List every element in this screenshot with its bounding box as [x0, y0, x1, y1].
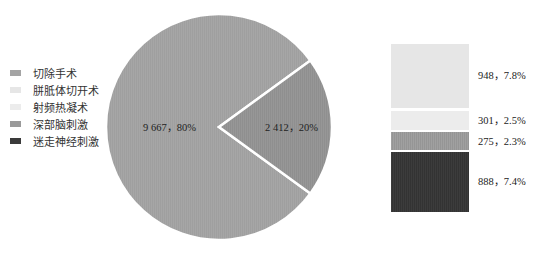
pie-of-bar-chart: 9 667，80% 2 412，20% 948，7.8% 301，2.5% 27… [0, 0, 535, 254]
bar-label-vns: 888，7.4% [478, 176, 526, 187]
bar-segment-vns [391, 152, 469, 212]
bar-label-radiofrequency: 301，2.5% [478, 115, 526, 126]
bar-label-callosotomy: 948，7.8% [478, 70, 526, 81]
bar-segment-radiofrequency [391, 111, 469, 130]
bar-label-dbs: 275，2.3% [478, 136, 526, 147]
bar-segment-callosotomy [391, 44, 469, 108]
pie-label-main: 9 667，80% [143, 122, 196, 133]
bar-segment-dbs [391, 132, 469, 150]
pie-label-other: 2 412，20% [265, 122, 318, 133]
